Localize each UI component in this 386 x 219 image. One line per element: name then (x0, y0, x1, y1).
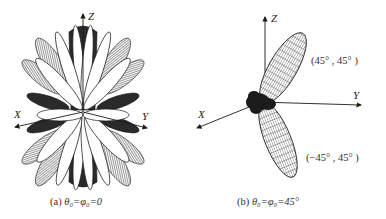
z-axis-label-a: Z (88, 10, 94, 22)
beam-annotation-upper: (45° , 45° ) (311, 55, 358, 66)
figure-a: Z X Y (a) θ₀=φ₀=0 (0, 0, 193, 219)
caption-a: (a) θ₀=φ₀=0 (50, 196, 102, 207)
y-axis-label-b: Y (353, 89, 359, 101)
z-axis-label-b: Z (271, 12, 277, 24)
x-axis-label-b: X (198, 108, 205, 120)
radiation-pattern-b (193, 0, 386, 219)
beam-annotation-lower: (−45° , 45° ) (306, 152, 359, 163)
figure-b: Z X Y (45° , 45° ) (−45° , 45° ) (b) θ₀=… (193, 0, 386, 219)
y-axis-label-a: Y (142, 110, 148, 122)
x-axis-label-a: X (14, 108, 21, 120)
caption-b: (b) θ₀=φ₀=45° (237, 196, 299, 207)
radiation-pattern-a (0, 0, 193, 219)
